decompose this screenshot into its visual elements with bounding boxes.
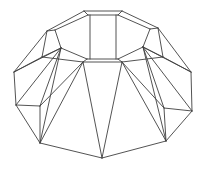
edge-A5-M2 — [122, 62, 164, 108]
edge-A5-APX — [102, 62, 122, 158]
edge-I3-C2 — [143, 29, 150, 47]
edge-A3-I3 — [150, 28, 158, 29]
edge-C2-I5 — [118, 47, 143, 59]
edge-A6-A7 — [42, 57, 83, 62]
edge-R2-B2 — [166, 111, 192, 141]
edge-A8-L1 — [14, 31, 47, 72]
edge-A1-I1 — [84, 11, 88, 15]
edge-C1-I8 — [55, 30, 61, 48]
edge-L2-M1 — [16, 105, 40, 106]
edge-C2-B2 — [143, 47, 166, 141]
edge-C2-R2 — [143, 47, 192, 111]
edge-R2-M2 — [164, 108, 192, 111]
dome-wireframe-drawing — [0, 0, 207, 169]
edge-A5-B2 — [122, 62, 166, 141]
edge-A6-APX — [83, 62, 102, 158]
edge-L1-L2 — [14, 72, 16, 105]
edge-L2-B1 — [16, 105, 40, 143]
edge-B2-APX — [102, 141, 166, 158]
edge-A2-I2 — [118, 11, 122, 15]
edge-A6-B1 — [40, 62, 83, 143]
edge-A6-M1 — [40, 62, 83, 106]
edge-A3-A4 — [158, 28, 163, 57]
edge-A8-A1 — [47, 11, 84, 31]
edge-A3-R1 — [158, 28, 191, 72]
edge-A7-A8 — [42, 31, 47, 57]
edge-B1-APX — [40, 143, 102, 158]
edge-I6-C1 — [61, 48, 87, 59]
drawing-canvas — [0, 0, 207, 169]
edge-A4-A5 — [122, 57, 163, 62]
edge-R1-R2 — [191, 72, 192, 111]
